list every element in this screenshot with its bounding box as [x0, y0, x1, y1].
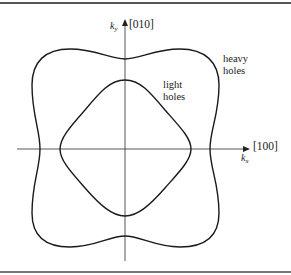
ky-direction-label: [010] [129, 18, 154, 30]
ky-arrowhead-icon [122, 19, 128, 26]
bottom-rule [0, 271, 291, 273]
contour-plot [0, 0, 291, 275]
ky-axis-label: ky [110, 20, 118, 35]
kx-direction-label: [100] [253, 140, 278, 152]
heavy-holes-label: heavy holes [223, 53, 248, 77]
ky-subscript: y [114, 25, 117, 33]
light-holes-label-line2: holes [163, 91, 185, 103]
heavy-holes-label-line2: holes [223, 65, 248, 77]
kx-axis-label: kx [241, 152, 249, 167]
kx-subscript: x [245, 157, 248, 165]
light-holes-label-line1: light [163, 79, 185, 91]
light-holes-label: light holes [163, 79, 185, 103]
band-contour-figure: ky [010] [100] kx heavy holes light hole… [0, 0, 291, 275]
heavy-holes-label-line1: heavy [223, 53, 248, 65]
